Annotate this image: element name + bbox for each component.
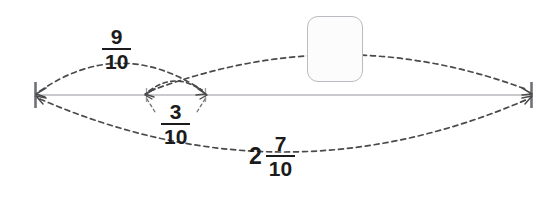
two-and-seven-tenths-whole: 2 xyxy=(249,143,262,170)
two-and-seven-tenths-denominator: 10 xyxy=(266,157,295,179)
nine-tenths-numerator: 9 xyxy=(108,26,126,48)
arc-three-tenths-leader-right xyxy=(197,99,205,112)
label-two-and-seven-tenths: 2 7 10 xyxy=(249,133,295,179)
diagram-canvas: 9 10 3 10 2 7 10 xyxy=(0,0,558,200)
arc-three-tenths-leader-left xyxy=(147,99,155,112)
nine-tenths-denominator: 10 xyxy=(102,50,131,72)
two-and-seven-tenths-fraction: 7 10 xyxy=(266,133,295,179)
three-tenths-numerator: 3 xyxy=(167,101,185,123)
two-and-seven-tenths-numerator: 7 xyxy=(272,133,290,155)
three-tenths-denominator: 10 xyxy=(161,125,190,147)
label-three-tenths: 3 10 xyxy=(161,101,190,147)
label-nine-tenths: 9 10 xyxy=(102,26,131,72)
answer-input-box[interactable] xyxy=(307,16,363,82)
